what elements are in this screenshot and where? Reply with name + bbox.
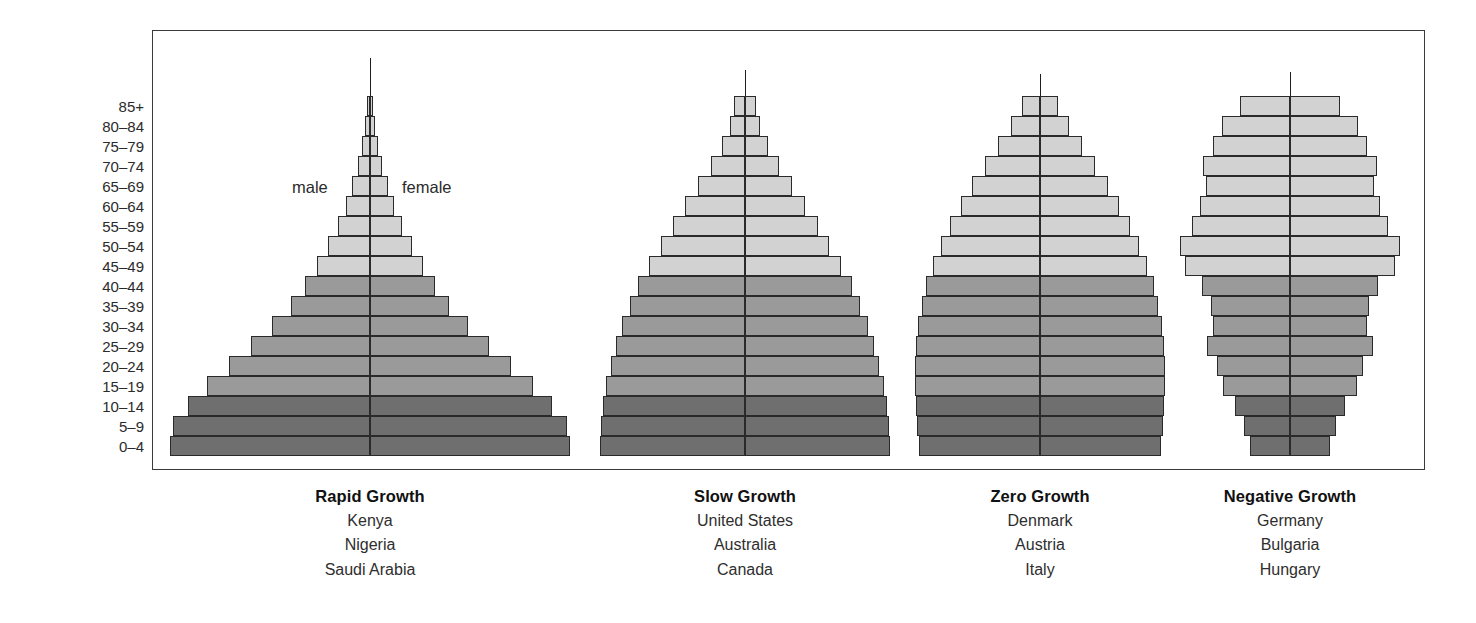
pyramid-row <box>915 256 1165 276</box>
bar-female-15-19 <box>1040 376 1165 396</box>
caption-rapid-growth: Rapid GrowthKenyaNigeriaSaudi Arabia <box>220 484 520 582</box>
age-tick-80-84: 80–84 <box>56 119 144 134</box>
bar-male-0-4 <box>170 436 370 456</box>
bar-female-65-69 <box>1040 176 1108 196</box>
caption-country: Canada <box>595 558 895 583</box>
pyramid-row <box>1180 236 1400 256</box>
bar-female-35-39 <box>745 296 860 316</box>
bar-female-10-14 <box>745 396 887 416</box>
caption-country: Saudi Arabia <box>220 558 520 583</box>
bar-male-60-64 <box>961 196 1040 216</box>
bar-female-25-29 <box>1290 336 1373 356</box>
bar-female-60-64 <box>370 196 394 216</box>
caption-country: United States <box>595 509 895 534</box>
age-tick-40-44: 40–44 <box>56 279 144 294</box>
y-axis-title-text: age group <box>0 0 24 44</box>
bar-male-40-44 <box>305 276 370 296</box>
pyramid-row <box>170 176 570 196</box>
age-tick-55-59: 55–59 <box>56 219 144 234</box>
bar-female-30-34 <box>1290 316 1367 336</box>
bar-male-40-44 <box>926 276 1040 296</box>
bar-male-30-34 <box>1213 316 1290 336</box>
age-tick-75-79: 75–79 <box>56 139 144 154</box>
bar-female-40-44 <box>1040 276 1154 296</box>
pyramid-row <box>600 336 890 356</box>
bar-female-70-74 <box>1290 156 1377 176</box>
age-tick-35-39: 35–39 <box>56 299 144 314</box>
pyramid-rapid-growth <box>170 30 570 470</box>
bar-female-65-69 <box>370 176 388 196</box>
bar-male-75-79 <box>722 136 745 156</box>
bar-female-20-24 <box>745 356 879 376</box>
pyramid-row <box>1180 416 1400 436</box>
pyramid-row <box>600 196 890 216</box>
age-tick-25-29: 25–29 <box>56 339 144 354</box>
bar-male-10-14 <box>1235 396 1290 416</box>
pyramid-row <box>600 236 890 256</box>
pyramid-row <box>170 296 570 316</box>
bar-female-50-54 <box>1040 236 1139 256</box>
bar-male-45-49 <box>649 256 745 276</box>
pyramid-row <box>915 436 1165 456</box>
bar-female-0-4 <box>1290 436 1330 456</box>
pyramid-row <box>600 116 890 136</box>
pyramid-row <box>170 256 570 276</box>
bar-female-30-34 <box>1040 316 1162 336</box>
caption-negative-growth: Negative GrowthGermanyBulgariaHungary <box>1140 484 1440 582</box>
bar-female-45-49 <box>1290 256 1395 276</box>
pyramid-plot-area <box>1180 30 1400 470</box>
bar-male-85- <box>1022 96 1040 116</box>
bar-female-5-9 <box>1290 416 1336 436</box>
pyramid-row <box>600 256 890 276</box>
age-tick-0-4: 0–4 <box>56 439 144 454</box>
bar-male-75-79 <box>362 136 370 156</box>
bar-male-65-69 <box>698 176 745 196</box>
age-tick-5-9: 5–9 <box>56 419 144 434</box>
bar-male-70-74 <box>358 156 370 176</box>
bar-male-60-64 <box>346 196 370 216</box>
pyramid-row <box>600 176 890 196</box>
bar-female-55-59 <box>1290 216 1388 236</box>
pyramid-row <box>170 236 570 256</box>
pyramid-row <box>600 396 890 416</box>
pyramid-row <box>170 316 570 336</box>
pyramid-slow-growth <box>600 30 890 470</box>
age-tick-10-14: 10–14 <box>56 399 144 414</box>
pyramid-row <box>600 216 890 236</box>
bar-male-0-4 <box>1250 436 1290 456</box>
bar-female-50-54 <box>370 236 412 256</box>
bar-male-35-39 <box>1211 296 1290 316</box>
bar-male-80-84 <box>1011 116 1040 136</box>
bar-female-55-59 <box>1040 216 1130 236</box>
bar-male-70-74 <box>985 156 1040 176</box>
bar-male-15-19 <box>207 376 370 396</box>
pyramid-row <box>1180 336 1400 356</box>
pyramid-row <box>170 156 570 176</box>
pyramid-row <box>600 376 890 396</box>
bar-male-30-34 <box>918 316 1040 336</box>
bar-female-85- <box>1290 96 1340 116</box>
bar-female-65-69 <box>745 176 792 196</box>
bar-male-0-4 <box>600 436 745 456</box>
bar-male-70-74 <box>711 156 745 176</box>
bar-female-80-84 <box>1290 116 1358 136</box>
bar-female-10-14 <box>370 396 552 416</box>
pyramid-plot-area <box>600 30 890 470</box>
pyramid-row <box>1180 176 1400 196</box>
pyramid-row <box>170 96 570 116</box>
pyramid-row <box>915 216 1165 236</box>
bar-female-40-44 <box>1290 276 1378 296</box>
bar-female-85- <box>370 96 373 116</box>
bar-female-45-49 <box>745 256 841 276</box>
bar-female-60-64 <box>745 196 805 216</box>
bar-female-30-34 <box>745 316 868 336</box>
pyramid-row <box>915 236 1165 256</box>
pyramid-row <box>1180 356 1400 376</box>
pyramid-row <box>170 276 570 296</box>
bar-male-10-14 <box>603 396 745 416</box>
bar-male-80-84 <box>730 116 745 136</box>
bar-female-10-14 <box>1040 396 1164 416</box>
pyramid-row <box>600 276 890 296</box>
bar-female-80-84 <box>370 116 375 136</box>
bar-male-65-69 <box>1206 176 1290 196</box>
